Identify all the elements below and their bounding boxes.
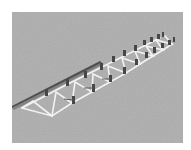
ground — [12, 12, 183, 143]
truss-render — [0, 0, 191, 150]
